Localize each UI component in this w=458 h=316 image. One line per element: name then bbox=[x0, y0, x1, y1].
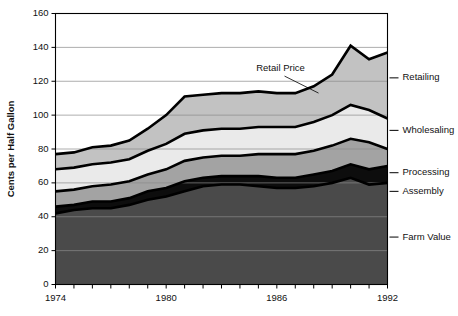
series-label-retailing: Retailing bbox=[403, 71, 440, 82]
x-tick-label: 1992 bbox=[377, 292, 398, 303]
series-label-processing: Processing bbox=[403, 166, 450, 177]
x-tick-label: 1986 bbox=[266, 292, 287, 303]
y-tick-label: 140 bbox=[33, 41, 49, 52]
y-tick-label: 40 bbox=[38, 210, 49, 221]
y-axis-title: Cents per Half Gallon bbox=[5, 101, 16, 198]
y-tick-label: 60 bbox=[38, 176, 49, 187]
y-tick-label: 120 bbox=[33, 75, 49, 86]
series-label-wholesaling: Wholesaling bbox=[403, 124, 455, 135]
y-tick-label: 80 bbox=[38, 143, 49, 154]
stacked-area-chart: 020406080100120140160 1974198019861992 R… bbox=[0, 0, 458, 316]
y-tick-label: 0 bbox=[43, 278, 48, 289]
y-tick-label: 20 bbox=[38, 244, 49, 255]
chart-container: 020406080100120140160 1974198019861992 R… bbox=[0, 0, 458, 316]
x-tick-label: 1974 bbox=[45, 292, 66, 303]
x-tick-label: 1980 bbox=[156, 292, 177, 303]
y-tick-label: 160 bbox=[33, 7, 49, 18]
series-label-farm-value: Farm Value bbox=[403, 231, 451, 242]
y-tick-label: 100 bbox=[33, 109, 49, 120]
annotation-retail-price: Retail Price bbox=[256, 62, 305, 73]
series-label-assembly: Assembly bbox=[403, 185, 444, 196]
